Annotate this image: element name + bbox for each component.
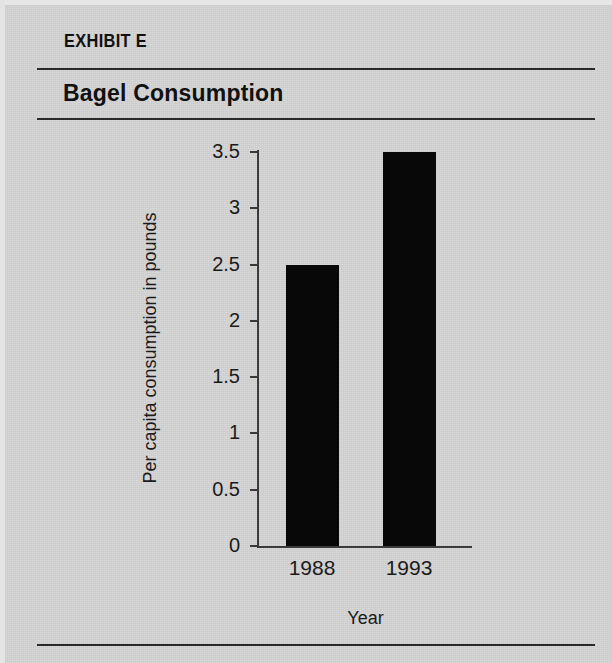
- y-axis-title: Per capita consumption in pounds: [140, 212, 161, 483]
- y-axis-tick: [250, 264, 258, 266]
- bar: [286, 265, 339, 546]
- y-axis-tick-label: 3.5: [212, 141, 240, 161]
- x-axis-line: [257, 546, 472, 548]
- y-axis-tick-label: 0.5: [212, 479, 240, 499]
- y-axis-tick-label: 3: [229, 197, 240, 217]
- y-axis-tick: [250, 151, 258, 153]
- x-axis-category-label: 1988: [262, 556, 362, 580]
- y-axis-tick-label: 2.5: [212, 254, 240, 274]
- x-axis-category-label: 1993: [359, 556, 459, 580]
- y-axis-tick-label: 2: [229, 310, 240, 330]
- y-axis-tick: [250, 320, 258, 322]
- y-axis-tick: [250, 376, 258, 378]
- y-axis-tick-label: 0: [229, 535, 240, 555]
- divider-bottom: [37, 644, 595, 646]
- y-axis-tick: [250, 432, 258, 434]
- bar-chart: 00.511.522.533.5 19881993 Year Per capit…: [0, 0, 612, 663]
- y-axis-tick: [250, 207, 258, 209]
- y-axis-tick: [250, 545, 258, 547]
- y-axis-tick-label: 1: [229, 422, 240, 442]
- x-axis-title: Year: [258, 608, 473, 629]
- bar: [383, 152, 436, 546]
- y-axis-tick: [250, 489, 258, 491]
- y-axis-tick-label: 1.5: [212, 366, 240, 386]
